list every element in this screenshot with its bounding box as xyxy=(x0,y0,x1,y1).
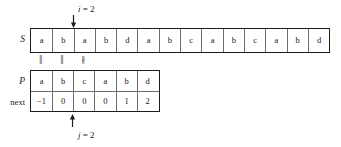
s-cell: b xyxy=(223,29,244,52)
s-cell: d xyxy=(308,29,329,52)
next-cell: 1 xyxy=(116,92,137,111)
s-cell: a xyxy=(31,29,52,52)
row-label-next: next xyxy=(2,98,25,107)
row-label-s: S xyxy=(8,35,25,45)
s-cell: a xyxy=(137,29,158,52)
pointer-j-equals: = xyxy=(81,130,91,140)
pointer-i-value: 2 xyxy=(90,4,95,14)
s-cell: b xyxy=(95,29,116,52)
p-cell: b xyxy=(116,71,137,91)
s-cell: a xyxy=(265,29,286,52)
arrow-down-icon xyxy=(70,15,77,28)
next-cell: 2 xyxy=(137,92,158,111)
s-cell: c xyxy=(180,29,201,52)
next-row: −1 0 0 0 1 2 xyxy=(31,91,159,111)
mismatch-mark-icon: ∦ xyxy=(73,54,94,67)
match-mark-icon: ‖ xyxy=(30,54,51,67)
s-cell: a xyxy=(74,29,95,52)
pointer-i-equals: = xyxy=(81,4,91,14)
kmp-diagram: i = 2 S a b a b d a b c a b c a b d ‖ ‖ … xyxy=(0,0,341,147)
p-cell: b xyxy=(52,71,73,91)
p-cell: c xyxy=(73,71,94,91)
p-cell: a xyxy=(31,71,52,91)
row-label-p: P xyxy=(8,77,25,87)
s-cell: c xyxy=(244,29,265,52)
next-cell: 0 xyxy=(73,92,94,111)
next-cell: 0 xyxy=(52,92,73,111)
pointer-i-label: i = 2 xyxy=(78,5,95,14)
next-cell: −1 xyxy=(31,92,52,111)
s-cell: a xyxy=(201,29,222,52)
comparison-marks-row: ‖ ‖ ∦ xyxy=(30,54,160,67)
s-cell: b xyxy=(287,29,308,52)
pointer-j-value: 2 xyxy=(90,130,95,140)
s-cell: d xyxy=(116,29,137,52)
pointer-j-label: j = 2 xyxy=(78,131,95,140)
match-mark-icon: ‖ xyxy=(51,54,72,67)
s-cell: b xyxy=(159,29,180,52)
s-cell: b xyxy=(52,29,73,52)
next-cell: 0 xyxy=(94,92,115,111)
p-cell: a xyxy=(94,71,115,91)
pattern-row: a b c a b d xyxy=(31,71,159,91)
p-cell: d xyxy=(137,71,158,91)
pattern-block: a b c a b d −1 0 0 0 1 2 xyxy=(30,70,160,112)
text-string-strip: a b a b d a b c a b c a b d xyxy=(30,28,330,53)
arrow-up-icon xyxy=(69,114,76,127)
